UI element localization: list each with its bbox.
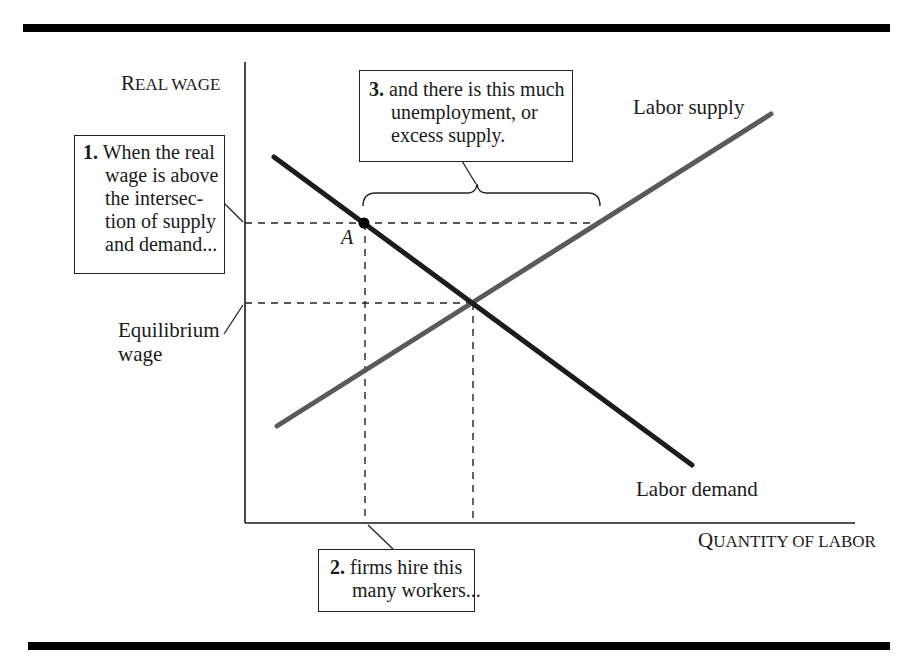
callout-1-pointer bbox=[224, 203, 243, 222]
labor-supply-label: Labor supply bbox=[633, 95, 744, 119]
callout-2-number: 2. bbox=[330, 556, 345, 578]
callout-1-line3: the intersec- bbox=[83, 187, 224, 210]
equilibrium-label-pointer bbox=[224, 305, 243, 334]
callout-2: 2. firms hire this many workers... bbox=[318, 549, 475, 612]
callout-3-line2: unemployment, or bbox=[369, 101, 572, 124]
callout-2-line1: firms hire this bbox=[345, 556, 462, 578]
equilibrium-wage-label: Equilibrium wage bbox=[118, 318, 220, 366]
y-axis-label-rest: EAL WAGE bbox=[135, 75, 220, 94]
callout-1-line5: and demand... bbox=[83, 233, 224, 256]
equilibrium-wage-label-line1: Equilibrium bbox=[118, 318, 220, 342]
callout-1: 1. When the real wage is above the inter… bbox=[74, 135, 225, 274]
callout-3-number: 3. bbox=[369, 78, 384, 100]
callout-3-pointer bbox=[462, 161, 476, 184]
callout-2-line2: many workers... bbox=[330, 579, 474, 602]
y-axis-label-initial: R bbox=[121, 71, 135, 95]
x-axis-label-initial: Q bbox=[698, 528, 713, 552]
point-a-marker bbox=[359, 218, 370, 229]
callout-1-number: 1. bbox=[83, 141, 98, 163]
excess-supply-brace bbox=[363, 184, 600, 206]
callout-1-line2: wage is above bbox=[83, 164, 224, 187]
callout-2-pointer bbox=[368, 525, 393, 549]
equilibrium-wage-label-line2: wage bbox=[118, 342, 220, 366]
callout-1-line1: When the real bbox=[98, 141, 215, 163]
callout-3-line3: excess supply. bbox=[369, 124, 572, 147]
labor-demand-label: Labor demand bbox=[636, 477, 758, 501]
x-axis-label-rest: UANTITY OF LABOR bbox=[713, 532, 876, 551]
point-a-label: A bbox=[341, 226, 353, 249]
y-axis-label: REAL WAGE bbox=[121, 71, 220, 97]
callout-3-line1: and there is this much bbox=[384, 78, 565, 100]
callout-3: 3. and there is this much unemployment, … bbox=[359, 70, 573, 162]
x-axis-label: QUANTITY OF LABOR bbox=[698, 528, 876, 554]
callout-1-line4: tion of supply bbox=[83, 210, 224, 233]
